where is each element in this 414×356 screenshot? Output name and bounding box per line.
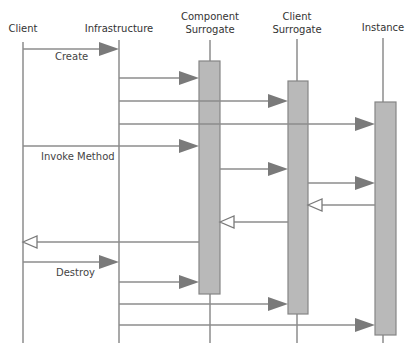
filled-arrowhead-icon [355, 318, 375, 332]
participant-label-infrastructure: Infrastructure [85, 23, 153, 34]
call-message-infrastructure-to-instance [119, 117, 375, 131]
filled-arrowhead-icon [99, 42, 119, 56]
call-message-infrastructure-to-component-surrogate [119, 71, 199, 85]
filled-arrowhead-icon [268, 94, 288, 108]
participant-label-client-surrogate: Client [283, 11, 312, 22]
activation-box-client-surrogate [288, 81, 308, 314]
open-arrowhead-icon [23, 236, 37, 248]
sequence-diagram: CreateInvoke MethodDestroy ClientInfrast… [0, 0, 414, 356]
filled-arrowhead-icon [179, 275, 199, 289]
return-message-client-surrogate-to-component-surrogate [220, 216, 288, 228]
filled-arrowhead-icon [179, 139, 199, 153]
filled-arrowhead-icon [268, 297, 288, 311]
call-message-client-surrogate-to-instance [308, 176, 375, 190]
call-message-component-surrogate-to-client-surrogate [220, 162, 288, 176]
activation-box-component-surrogate [199, 61, 220, 294]
filled-arrowhead-icon [179, 71, 199, 85]
open-arrowhead-icon [220, 216, 234, 228]
call-message-client-to-component-surrogate: Invoke Method [23, 139, 199, 162]
open-arrowhead-icon [308, 199, 322, 211]
call-message-infrastructure-to-client-surrogate [119, 297, 288, 311]
message-label: Create [55, 51, 88, 62]
participant-label-instance: Instance [362, 22, 405, 33]
filled-arrowhead-icon [355, 176, 375, 190]
call-message-client-to-infrastructure: Create [23, 42, 119, 62]
message-label: Destroy [56, 267, 95, 278]
call-message-infrastructure-to-component-surrogate [119, 275, 199, 289]
return-message-instance-to-client-surrogate [308, 199, 375, 211]
filled-arrowhead-icon [355, 117, 375, 131]
participant-label-component-surrogate: Surrogate [185, 24, 234, 35]
activation-boxes [199, 61, 396, 335]
participant-label-client-surrogate: Surrogate [272, 24, 321, 35]
call-message-client-to-infrastructure: Destroy [23, 255, 119, 278]
filled-arrowhead-icon [268, 162, 288, 176]
call-message-infrastructure-to-instance [119, 318, 375, 332]
message-label: Invoke Method [41, 151, 115, 162]
filled-arrowhead-icon [99, 255, 119, 269]
return-message-component-surrogate-to-client [23, 236, 199, 248]
participant-label-client: Client [9, 23, 38, 34]
activation-box-instance [375, 102, 396, 335]
participant-labels: ClientInfrastructureComponentSurrogateCl… [9, 11, 405, 35]
participant-label-component-surrogate: Component [181, 11, 239, 22]
